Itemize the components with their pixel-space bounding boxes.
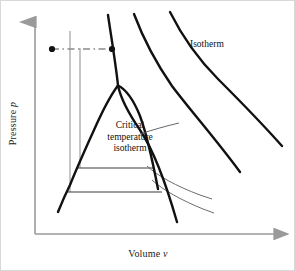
isotherm-annotation-label: Isotherm <box>190 39 224 49</box>
critical-temperature-isotherm-annotation-label: Critical temperature isotherm <box>94 120 166 155</box>
x-axis-label-symbol: v <box>163 248 168 259</box>
pv-diagram-figure: Pressure p Volume v Isotherm Critical te… <box>0 0 295 271</box>
x-axis-label: Volume v <box>98 248 198 259</box>
critical-label-line-1: Critical <box>94 120 166 132</box>
x-axis-label-text: Volume <box>128 248 163 259</box>
critical-label-line-3: isotherm <box>94 143 166 155</box>
y-axis-label: Pressure p <box>7 94 18 154</box>
critical-temperature-isotherm-curve <box>108 15 177 222</box>
supercritical-isotherm-2 <box>170 12 282 146</box>
left-endpoint-marker <box>49 46 55 52</box>
y-axis-label-text: Pressure <box>7 107 18 145</box>
critical-label-line-2: temperature <box>94 132 166 144</box>
y-axis-label-symbol: p <box>7 102 18 107</box>
